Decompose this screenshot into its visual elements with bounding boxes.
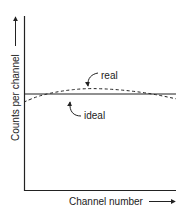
- label-real: real: [101, 70, 118, 81]
- x-axis-label: Channel number: [69, 196, 175, 207]
- annotation-real: real: [88, 70, 118, 86]
- label-ideal: ideal: [84, 110, 105, 121]
- spectrum-diagram: real ideal Channel number Counts per cha…: [0, 0, 189, 214]
- y-label-text: Counts per channel: [10, 54, 21, 141]
- x-label-text: Channel number: [69, 196, 144, 207]
- annotation-ideal: ideal: [70, 102, 105, 121]
- series-real: [24, 89, 176, 102]
- arrow-real: [88, 73, 98, 86]
- y-axis-label: Counts per channel: [10, 17, 21, 141]
- arrow-ideal: [70, 102, 81, 116]
